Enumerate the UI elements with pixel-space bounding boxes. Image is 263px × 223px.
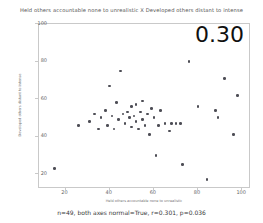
scatter-point	[130, 105, 133, 108]
scatter-point	[97, 128, 100, 131]
x-tick-mark	[65, 188, 66, 191]
scatter-point	[126, 111, 129, 114]
scatter-plot-figure: Held others accountable none to unrealis…	[0, 0, 263, 223]
y-tick-mark	[35, 23, 38, 24]
x-tick-mark	[153, 188, 154, 191]
scatter-point	[232, 133, 235, 136]
x-axis-label: Held others accountable none to unrealis…	[38, 199, 250, 203]
y-tick-mark	[35, 61, 38, 62]
scatter-point	[119, 70, 122, 73]
x-tick-mark	[241, 188, 242, 191]
scatter-point	[115, 101, 118, 104]
scatter-point	[88, 120, 91, 123]
scatter-point	[164, 122, 167, 125]
scatter-point	[113, 128, 116, 131]
figure-title: Held others accountable none to unrealis…	[0, 7, 263, 14]
scatter-point	[122, 113, 125, 116]
y-axis-label: Developed others distant to intense	[18, 74, 22, 137]
scatter-point	[148, 133, 151, 136]
scatter-point	[135, 103, 138, 106]
scatter-point	[135, 120, 138, 123]
correlation-annotation: 0.30	[195, 23, 244, 47]
scatter-point	[146, 113, 149, 116]
scatter-point	[53, 167, 56, 170]
scatter-point	[157, 124, 160, 127]
scatter-point	[108, 85, 111, 88]
y-tick-mark	[35, 136, 38, 137]
scatter-point	[144, 124, 147, 127]
scatter-point	[106, 124, 109, 127]
scatter-point	[130, 126, 133, 129]
scatter-point	[117, 118, 120, 121]
scatter-point	[214, 109, 217, 112]
scatter-point	[104, 109, 107, 112]
scatter-point	[111, 115, 114, 118]
scatter-point	[170, 122, 173, 125]
scatter-point	[159, 109, 162, 112]
scatter-point	[141, 100, 144, 103]
scatter-point	[77, 124, 80, 127]
x-tick-mark	[197, 188, 198, 191]
scatter-point	[153, 116, 156, 119]
scatter-point	[150, 107, 153, 110]
scatter-point	[155, 154, 158, 157]
scatter-point	[128, 116, 131, 119]
scatter-point	[141, 118, 144, 121]
scatter-point	[206, 178, 209, 181]
y-tick-mark	[35, 98, 38, 99]
scatter-point	[236, 94, 239, 97]
scatter-point	[124, 122, 127, 125]
scatter-point	[188, 60, 191, 63]
scatter-point	[181, 163, 184, 166]
scatter-point	[139, 111, 142, 114]
y-tick-mark	[35, 173, 38, 174]
scatter-point	[175, 122, 178, 125]
scatter-point	[223, 77, 226, 80]
scatter-point	[168, 130, 171, 133]
figure-caption: n=49, both axes normal=True, r=0.301, p=…	[0, 209, 263, 217]
scatter-point	[100, 116, 103, 119]
scatter-point	[217, 116, 220, 119]
scatter-point	[137, 128, 140, 131]
scatter-point	[133, 115, 136, 118]
plot-axes-area: 0.30	[38, 23, 250, 188]
x-tick-mark	[109, 188, 110, 191]
scatter-point	[179, 122, 182, 125]
scatter-point	[197, 105, 200, 108]
scatter-point	[93, 113, 96, 116]
